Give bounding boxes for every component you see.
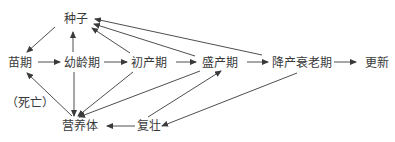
node-rejuvenation: 复壮 — [137, 119, 161, 133]
edge-decline-to-rejuvenation — [162, 73, 297, 126]
edge-decline-to-seed — [95, 19, 262, 55]
node-peak-production: 盛产期 — [202, 56, 238, 70]
edge-peak-to-vegetative — [79, 71, 200, 117]
life-cycle-diagram: 种子 苗期 幼龄期 初产期 盛产期 降产衰老期 更新 （死亡） 营养体 复壮 — [0, 0, 395, 142]
node-seed: 种子 — [64, 12, 88, 26]
edges-layer — [0, 0, 395, 142]
node-death: （死亡） — [6, 96, 54, 110]
edge-seed-to-seedling — [27, 27, 55, 52]
edge-peak-to-seed — [94, 24, 195, 56]
node-renewal: 更新 — [365, 56, 389, 70]
node-seedling: 苗期 — [8, 56, 32, 70]
edge-initial-to-seed — [92, 28, 130, 53]
node-decline-senescence: 降产衰老期 — [272, 56, 332, 70]
node-juvenile: 幼龄期 — [64, 56, 100, 70]
edge-rejuvenation-to-peak — [148, 71, 221, 117]
node-initial-production: 初产期 — [131, 56, 167, 70]
edge-initial-to-vegetative — [78, 72, 133, 116]
node-vegetative: 营养体 — [62, 119, 98, 133]
